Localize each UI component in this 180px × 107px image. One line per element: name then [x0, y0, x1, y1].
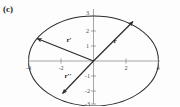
y-tick-label-pos3: 3 — [86, 9, 89, 16]
figure-panel: (c) -4 -2 2 4 3 2 1 -1 — [0, 0, 180, 106]
vector-label-r-double-prime: r'' — [65, 72, 72, 80]
x-tick-label-pos2: 2 — [124, 64, 127, 71]
vector-label-r-prime: r' — [66, 36, 71, 44]
y-tick-label-neg2: -2 — [85, 87, 90, 94]
y-tick-label-neg1: -1 — [85, 72, 90, 79]
ellipse-vector-plot: -4 -2 2 4 3 2 1 -1 -2 -3 r r' r'' — [0, 0, 180, 106]
y-tick-label-pos1: 1 — [86, 42, 89, 49]
x-tick-label-neg4: -4 — [26, 64, 31, 71]
y-tick-label-pos2: 2 — [86, 27, 89, 34]
x-tick-label-neg2: -2 — [58, 64, 63, 71]
y-tick-label-neg3: -3 — [85, 100, 90, 107]
vector-label-r: r — [113, 37, 116, 45]
x-tick-label-pos4: 4 — [156, 64, 159, 71]
